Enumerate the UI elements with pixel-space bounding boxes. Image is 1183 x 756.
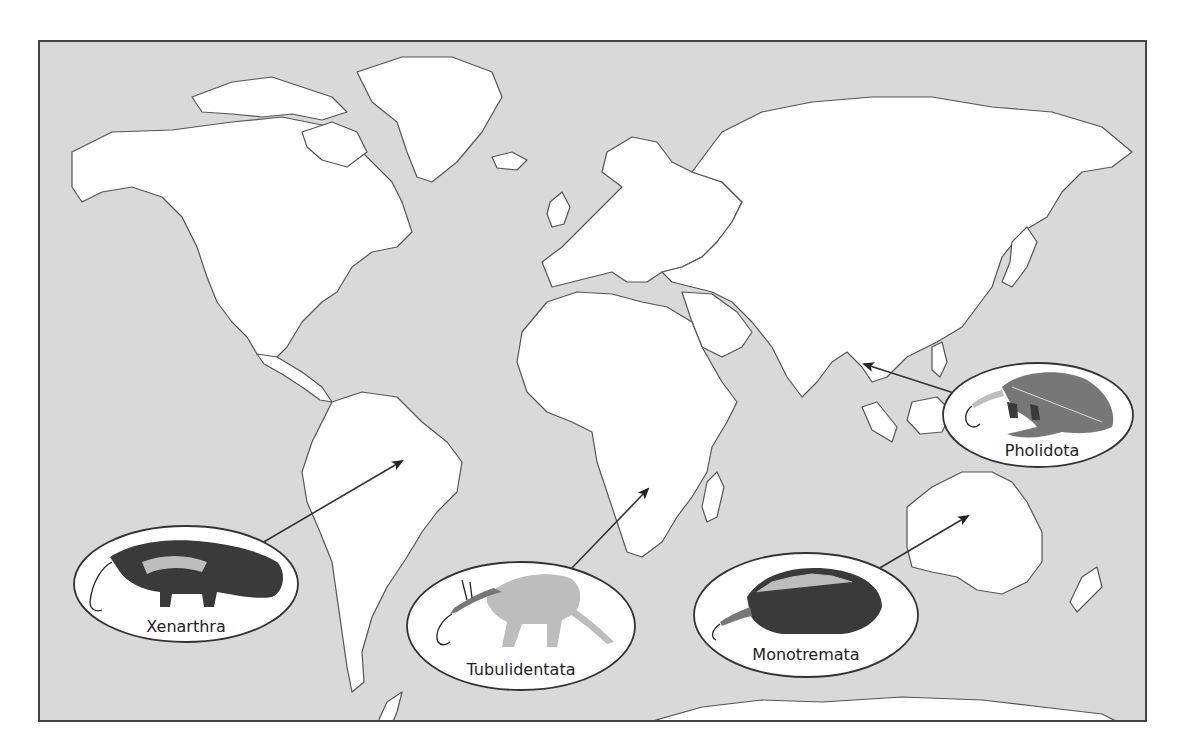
label-pholidota: Pholidota — [1005, 441, 1080, 460]
world-map-frame: Xenarthra Tubulidentata — [38, 40, 1147, 722]
label-monotremata: Monotremata — [752, 645, 859, 664]
callouts-layer: Xenarthra Tubulidentata — [40, 42, 1147, 722]
callout-tubulidentata: Tubulidentata — [407, 562, 635, 690]
callout-monotremata: Monotremata — [694, 553, 918, 677]
callout-pholidota: Pholidota — [943, 363, 1133, 467]
label-tubulidentata: Tubulidentata — [466, 660, 576, 679]
label-xenarthra: Xenarthra — [146, 617, 225, 636]
callout-xenarthra: Xenarthra — [74, 526, 298, 642]
